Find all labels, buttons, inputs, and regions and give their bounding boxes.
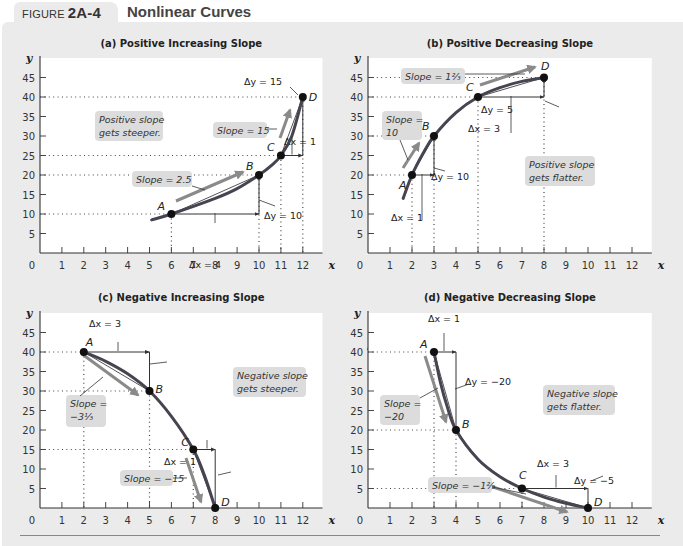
x-tick-label: 10	[582, 260, 595, 271]
x-tick-label: 3	[431, 515, 437, 526]
y-tick-label: 10	[350, 464, 363, 475]
x-tick-label: 10	[253, 260, 266, 271]
delta-x-label: Δx = 1	[391, 212, 423, 223]
x-tick-label: 6	[168, 260, 174, 271]
data-point	[80, 348, 88, 356]
x-tick-label: 1	[59, 515, 65, 526]
y-tick-label: 20	[350, 425, 363, 436]
y-tick-label: 30	[22, 386, 35, 397]
data-point	[408, 171, 416, 179]
y-tick-label: 35	[22, 112, 35, 123]
slope-label-text: Slope = 1⅔	[405, 71, 461, 82]
delta-y-label: Δy = 10	[431, 171, 469, 182]
point-label: B	[156, 383, 164, 396]
x-tick-label: 11	[604, 260, 617, 271]
x-axis-label: x	[657, 514, 665, 527]
panel-a-chart: (a) Positive Increasing Slopeyx012345678…	[22, 38, 335, 272]
panel-b-chart: (b) Positive Decreasing Slopeyx012345678…	[350, 38, 665, 272]
x-axis-label: x	[657, 259, 665, 272]
x-tick-label: 9	[563, 515, 569, 526]
y-tick-label: 45	[22, 328, 35, 339]
x-tick-label: 5	[475, 515, 481, 526]
data-point	[584, 504, 592, 512]
x-tick-label: 12	[296, 515, 309, 526]
y-tick-label: 45	[22, 73, 35, 84]
slope-label-text: Slope =	[384, 398, 421, 409]
x-tick-label: 4	[124, 260, 130, 271]
y-tick-label: 5	[29, 229, 35, 240]
delta-x-label: Δx = 4	[189, 259, 221, 270]
x-tick-label: 8	[541, 515, 547, 526]
x-tick-label: 9	[234, 260, 240, 271]
y-tick-label: 15	[22, 445, 35, 456]
x-tick-label: 12	[296, 260, 309, 271]
note-box-text: gets flatter.	[529, 172, 584, 183]
data-point	[452, 426, 460, 434]
y-tick-label: 25	[350, 406, 363, 417]
x-tick-label: 0	[29, 515, 35, 526]
slope-label-text: Slope = −15	[124, 473, 184, 484]
y-tick-label: 30	[350, 131, 363, 142]
x-axis-label: x	[328, 514, 336, 527]
point-label: C	[181, 436, 189, 449]
point-label: D	[594, 496, 602, 509]
data-point	[540, 74, 548, 82]
x-tick-label: 5	[146, 260, 152, 271]
slope-label-text: Slope = −1⅔	[432, 480, 496, 491]
point-label: A	[398, 179, 407, 192]
panel-d-chart: (d) Negative Decreasing Slopeyx012345678…	[350, 292, 665, 527]
x-tick-label: 12	[626, 515, 639, 526]
x-tick-label: 5	[146, 515, 152, 526]
point-label: B	[462, 418, 470, 431]
y-axis-label: y	[25, 52, 34, 65]
y-tick-label: 30	[350, 386, 363, 397]
x-tick-label: 11	[275, 515, 288, 526]
y-tick-label: 40	[350, 347, 363, 358]
x-tick-label: 5	[475, 260, 481, 271]
x-tick-label: 0	[357, 515, 363, 526]
delta-y-label: Δy = 10	[264, 210, 302, 221]
x-tick-label: 0	[357, 260, 363, 271]
y-tick-label: 35	[22, 367, 35, 378]
data-point	[430, 348, 438, 356]
x-tick-label: 4	[453, 515, 459, 526]
x-tick-label: 12	[626, 260, 639, 271]
point-label: D	[309, 91, 317, 104]
y-axis-label: y	[25, 307, 34, 320]
data-point	[167, 210, 175, 218]
x-tick-label: 7	[519, 515, 525, 526]
x-tick-label: 11	[604, 515, 617, 526]
y-tick-label: 20	[350, 170, 363, 181]
point-label: D	[541, 60, 549, 73]
data-point	[146, 387, 154, 395]
point-label: C	[519, 469, 527, 482]
y-tick-label: 25	[22, 406, 35, 417]
x-tick-label: 4	[124, 515, 130, 526]
charts-canvas: (a) Positive Increasing Slopeyx012345678…	[0, 0, 683, 546]
y-tick-label: 40	[22, 92, 35, 103]
point-label: A	[85, 336, 94, 349]
note-box-text: gets steeper.	[237, 383, 299, 394]
x-tick-label: 1	[387, 260, 393, 271]
slope-label-text: Slope =	[70, 398, 107, 409]
slope-label-text: Slope = 2.5	[136, 174, 191, 185]
delta-x-label: Δx = 3	[89, 318, 121, 329]
x-tick-label: 3	[103, 260, 109, 271]
panel-title: (b) Positive Decreasing Slope	[427, 38, 594, 49]
y-tick-label: 10	[22, 209, 35, 220]
x-tick-label: 1	[59, 260, 65, 271]
data-point	[255, 171, 263, 179]
y-tick-label: 45	[350, 73, 363, 84]
note-box-text: Negative slope	[547, 388, 618, 399]
y-tick-label: 25	[22, 151, 35, 162]
x-tick-label: 6	[497, 260, 503, 271]
x-tick-label: 8	[541, 260, 547, 271]
y-tick-label: 45	[350, 328, 363, 339]
x-tick-label: 6	[497, 515, 503, 526]
note-box-text: Negative slope	[237, 370, 308, 381]
delta-x-label: Δx = 1	[428, 313, 460, 324]
slope-label-text: Slope =	[386, 114, 423, 125]
x-tick-label: 2	[409, 515, 415, 526]
point-label: C	[466, 81, 474, 94]
y-tick-label: 10	[22, 464, 35, 475]
